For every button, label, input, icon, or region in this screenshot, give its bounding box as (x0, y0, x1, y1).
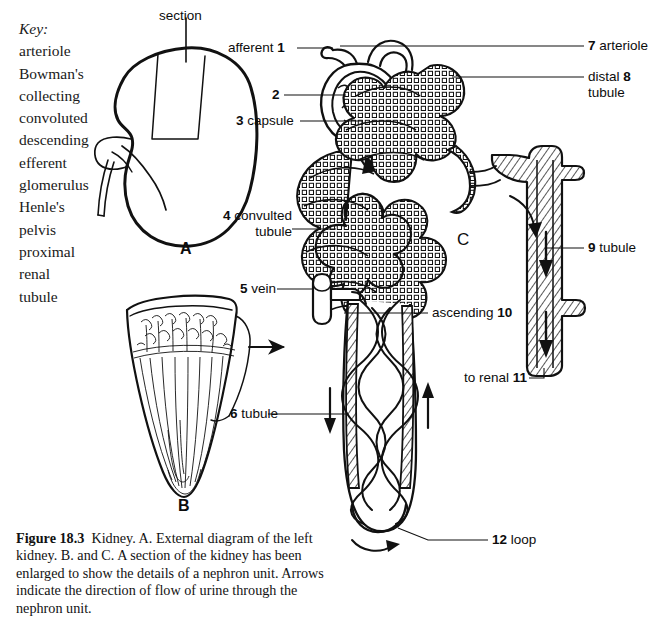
key-item-renal: renal (19, 263, 129, 285)
label-10-number: 10 (497, 305, 512, 320)
panel-letter-a: A (180, 240, 192, 258)
key-item-glomerulus: glomerulus (19, 174, 129, 196)
label-12-text: loop (511, 532, 537, 547)
panel-letter-c: C (457, 230, 469, 250)
label-4-proximal-convoluted-tubule: 4 convulted tubule (207, 208, 292, 239)
figure-page: Key: arteriole Bowman's collecting convo… (0, 0, 656, 626)
label-3-number: 3 (236, 113, 244, 128)
label-11-to-renal-pelvis: to renal 11 (455, 370, 527, 386)
key-item-convoluted: convoluted (19, 107, 129, 129)
label-7-efferent-arteriole: 7 arteriole (588, 38, 648, 54)
distal-convoluted-tubule (336, 65, 475, 213)
key-title: Key: (19, 18, 129, 40)
label-8-number: 8 (623, 69, 631, 84)
label-11-number: 11 (513, 370, 527, 385)
key-item-descending: descending (19, 129, 129, 151)
label-6-collecting-tubule: 6 tubule (230, 406, 278, 422)
label-10-ascending-limb: ascending 10 (432, 305, 512, 321)
label-12-henles-loop: 12 loop (492, 532, 536, 548)
label-6-text: tubule (241, 406, 278, 421)
key-item-henles: Henle's (19, 196, 129, 218)
figure-caption: Figure 18.3 Kidney. A. External diagram … (16, 530, 328, 617)
label-9-collecting-tubule: 9 tubule (588, 240, 636, 256)
label-12-number: 12 (492, 532, 507, 547)
label-8-text-line2: tubule (588, 85, 631, 101)
label-3-bowmans-capsule: 3 capsule (236, 113, 294, 129)
label-8-text: distal (588, 69, 620, 84)
label-8-distal-convoluted-tubule: distal 8 tubule (588, 69, 631, 100)
label-4-number: 4 (223, 208, 231, 223)
collecting-duct (470, 146, 585, 376)
key-item-tubule: tubule (19, 286, 129, 308)
label-7-text: arteriole (599, 38, 648, 53)
panel-c-nephron (268, 41, 585, 552)
label-5-number: 5 (240, 281, 248, 296)
label-9-text: tubule (599, 240, 636, 255)
key-block: Key: arteriole Bowman's collecting convo… (19, 18, 129, 308)
label-10-text: ascending (432, 305, 494, 320)
label-1-afferent-arteriole: afferent 1 (228, 40, 285, 56)
loop-of-henle (342, 300, 418, 552)
label-2-number: 2 (272, 87, 280, 102)
panel-letter-b: B (178, 497, 190, 515)
label-7-number: 7 (588, 38, 596, 53)
label-2-glomerulus: 2 (272, 87, 280, 103)
label-3-text: capsule (247, 113, 294, 128)
label-5-text: vein (251, 281, 276, 296)
panel-b-kidney-wedge (127, 296, 283, 497)
label-1-text: afferent (228, 40, 274, 55)
label-9-number: 9 (588, 240, 596, 255)
label-11-text: to renal (464, 370, 509, 385)
key-item-arteriole: arteriole (19, 40, 129, 62)
label-5-renal-vein: 5 vein (240, 281, 276, 297)
key-item-collecting: collecting (19, 85, 129, 107)
key-item-proximal: proximal (19, 241, 129, 263)
figure-caption-number: Figure 18.3 (16, 530, 84, 546)
label-4-text-line2: tubule (207, 224, 292, 240)
key-item-pelvis: pelvis (19, 219, 129, 241)
section-label: section (159, 8, 202, 24)
label-1-number: 1 (277, 40, 285, 55)
key-item-efferent: efferent (19, 152, 129, 174)
label-6-number: 6 (230, 406, 238, 421)
label-4-text: convulted (234, 208, 292, 223)
key-item-bowmans: Bowman's (19, 63, 129, 85)
